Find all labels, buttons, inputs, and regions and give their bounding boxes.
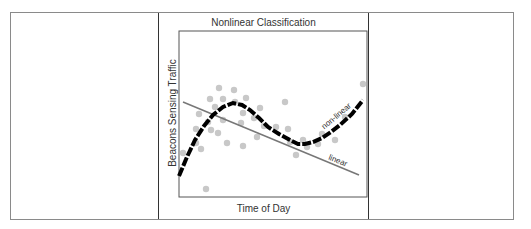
data-point [180, 150, 186, 156]
data-point [243, 95, 249, 101]
data-point [282, 99, 288, 105]
data-point [207, 96, 213, 102]
scatter-points [180, 81, 366, 192]
data-point [257, 105, 263, 111]
data-point [196, 111, 202, 117]
plot-area: non-linearlinear [0, 0, 531, 229]
data-point [332, 137, 338, 143]
data-point [293, 152, 299, 158]
data-point [240, 110, 246, 116]
data-point [240, 143, 246, 149]
data-point [254, 134, 260, 140]
data-point [215, 130, 221, 136]
data-point [203, 186, 209, 192]
data-point [224, 140, 230, 146]
data-point [216, 85, 222, 91]
data-point [220, 96, 226, 102]
data-point [198, 146, 204, 152]
data-point [208, 127, 214, 133]
data-point [360, 81, 366, 87]
data-point [193, 126, 199, 132]
data-point [231, 87, 237, 93]
data-point [285, 126, 291, 132]
